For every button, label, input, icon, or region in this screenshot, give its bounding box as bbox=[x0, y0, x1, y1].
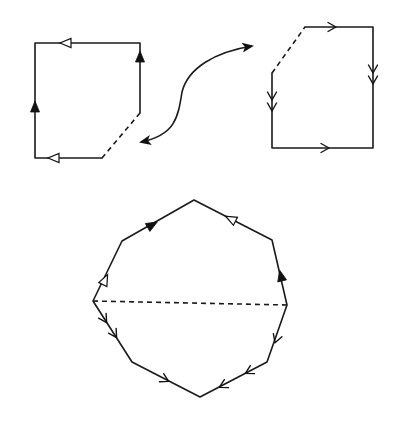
open-triangle-arrow-icon bbox=[48, 154, 59, 163]
left-piece-solid-edges bbox=[35, 43, 140, 158]
right-piece-dashed-edge bbox=[272, 27, 305, 73]
filled-triangle-arrow-icon bbox=[275, 269, 286, 282]
double-headed-curved-arrow bbox=[141, 46, 252, 142]
open-triangle-arrow-icon bbox=[224, 212, 238, 225]
left-piece-dashed-edge bbox=[102, 113, 140, 158]
identification-diagram bbox=[0, 0, 403, 423]
edge-arrows bbox=[31, 23, 378, 392]
octagon bbox=[93, 200, 287, 397]
open-triangle-arrow-icon bbox=[60, 39, 71, 48]
right-piece-solid-edges bbox=[272, 27, 373, 148]
left-piece bbox=[35, 43, 140, 158]
filled-triangle-arrow-icon bbox=[31, 101, 40, 112]
octagon-outline bbox=[93, 200, 287, 397]
octagon-dashed-diagonal bbox=[93, 301, 287, 305]
right-piece bbox=[272, 27, 373, 148]
filled-triangle-arrow-icon bbox=[136, 51, 145, 62]
